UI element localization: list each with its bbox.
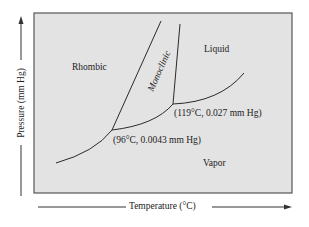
- x-axis-label: Temperature (°C): [129, 201, 196, 211]
- rhombic-label: Rhombic: [72, 62, 107, 72]
- x-axis-arrowhead-icon: [284, 205, 292, 210]
- vapor-label: Vapor: [203, 158, 226, 168]
- plot-area: [34, 13, 292, 193]
- triple-point-high-label: (119°C, 0.027 mm Hg): [174, 108, 262, 118]
- y-axis-arrowhead-icon: [19, 16, 24, 24]
- triple-point-low-label: (96°C, 0.0043 mm Hg): [113, 135, 201, 145]
- phase-diagram: Monoclinic Pressure (mm Hg): [0, 0, 309, 227]
- liquid-label: Liquid: [204, 44, 229, 54]
- y-axis-label: Pressure (mm Hg): [16, 68, 27, 138]
